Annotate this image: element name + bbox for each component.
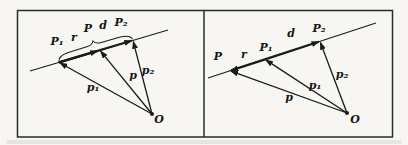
left-brace: [56, 30, 133, 62]
right-vector-r: [231, 59, 265, 70]
right-label-P2: P₂: [311, 22, 325, 35]
left-label-p1: p₁: [87, 81, 100, 94]
left-brace-group: [56, 30, 133, 62]
right-label-p: p: [285, 91, 293, 104]
left-panel-diagram: P₁ r P d P₂ p₁ p p₂ O: [30, 16, 168, 126]
right-label-d: d: [287, 27, 295, 40]
left-label-P: P: [83, 22, 93, 35]
scan-smudge: [6, 140, 402, 144]
left-vector-p1: [60, 63, 152, 114]
left-label-r: r: [71, 31, 78, 44]
right-label-p2: p₂: [336, 68, 349, 81]
left-label-p2: p₂: [142, 64, 155, 77]
right-label-P1: P₁: [258, 41, 272, 54]
right-label-O: O: [350, 113, 360, 126]
figure-container: P₁ r P d P₂ p₁ p p₂ O P r P₁ d: [0, 0, 408, 145]
left-vector-r: [59, 51, 98, 62]
right-label-p1: p₁: [309, 79, 322, 92]
right-vector-d: [265, 42, 319, 60]
left-label-p: p: [129, 69, 137, 82]
right-label-P: P: [213, 50, 223, 63]
left-label-O: O: [154, 113, 164, 126]
right-label-r: r: [241, 48, 248, 61]
left-label-P1: P₁: [49, 35, 63, 48]
left-label-d: d: [99, 19, 107, 32]
left-label-P2: P₂: [113, 16, 127, 29]
vector-line-diagram: P₁ r P d P₂ p₁ p p₂ O P r P₁ d: [0, 0, 408, 145]
right-origin-dot: [345, 111, 349, 115]
right-panel-diagram: P r P₁ d P₂ p₁ p p₂ O: [208, 22, 376, 126]
